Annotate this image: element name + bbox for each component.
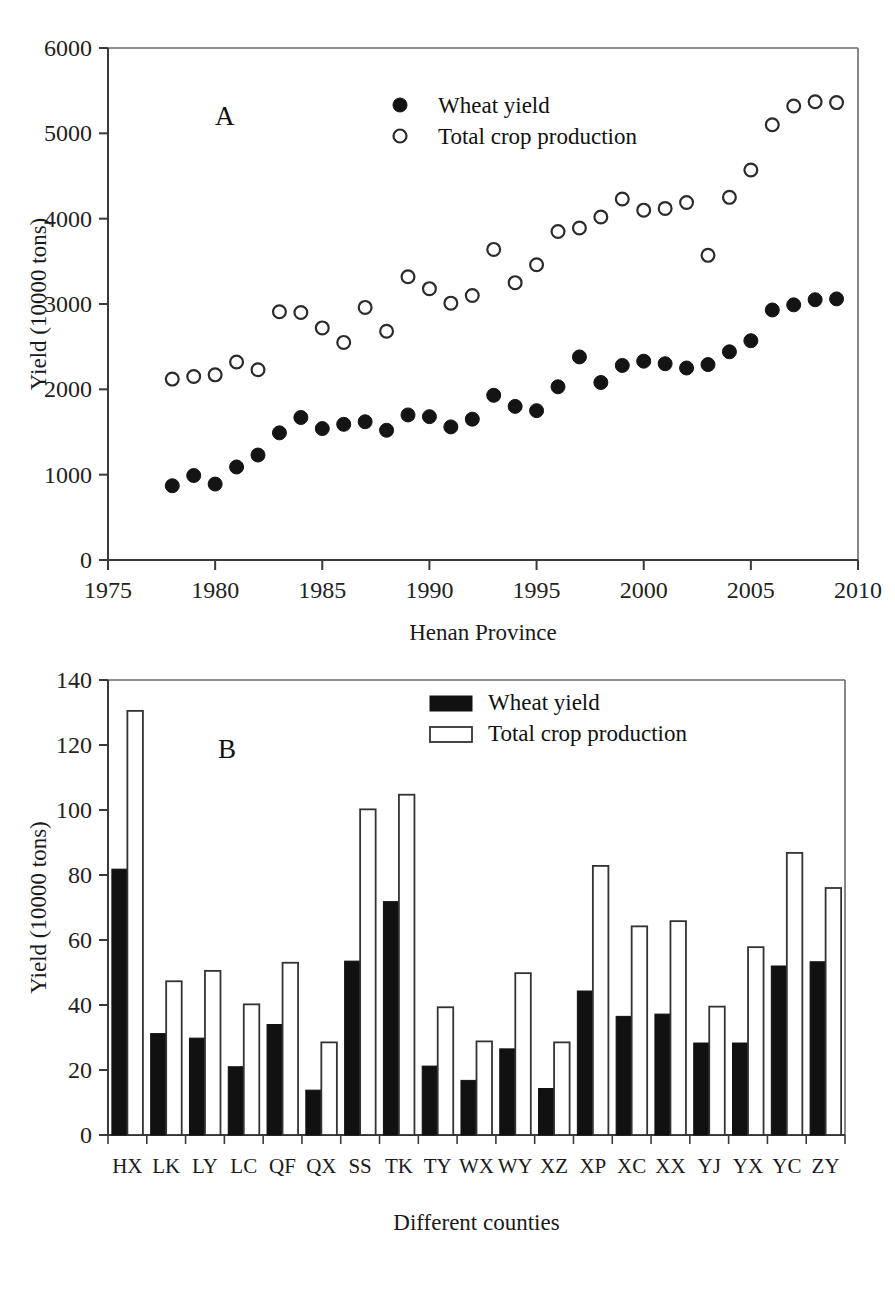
bar-group	[306, 1042, 337, 1135]
x-tick-label: 2010	[834, 577, 882, 603]
x-category-label: XZ	[540, 1154, 568, 1178]
bar-group	[345, 809, 376, 1135]
bar-group	[112, 711, 143, 1135]
data-point-total	[659, 202, 672, 215]
data-point-total	[273, 305, 286, 318]
data-point-total	[530, 258, 543, 271]
data-point-wheat	[401, 408, 415, 422]
data-point-total	[552, 225, 565, 238]
data-point-wheat	[594, 376, 608, 390]
data-point-wheat	[787, 298, 801, 312]
bar-wheat-yield	[655, 1014, 671, 1135]
y-tick-label: 5000	[44, 120, 92, 146]
bar-total-crop-production	[670, 921, 686, 1135]
x-category-label: QF	[269, 1154, 296, 1178]
bar-wheat-yield	[267, 1025, 283, 1136]
legend-swatch-wheat-yield	[430, 696, 472, 711]
data-point-wheat	[294, 410, 308, 424]
data-point-wheat	[465, 412, 479, 426]
bar-total-crop-production	[399, 795, 415, 1135]
bar-total-crop-production	[554, 1042, 570, 1135]
data-point-wheat	[487, 388, 501, 402]
bar-group	[539, 1042, 570, 1135]
bar-total-crop-production	[748, 947, 764, 1135]
x-tick-label: 2000	[620, 577, 668, 603]
y-tick-label: 2000	[44, 376, 92, 402]
data-point-wheat	[422, 410, 436, 424]
x-tick-label: 1995	[513, 577, 561, 603]
x-tick-label: 1985	[298, 577, 346, 603]
bar-wheat-yield	[228, 1067, 244, 1135]
x-category-label: WX	[459, 1154, 494, 1178]
data-point-total	[316, 321, 329, 334]
y-tick-label: 140	[56, 667, 92, 693]
bar-total-crop-production	[321, 1042, 337, 1135]
data-point-wheat	[165, 479, 179, 493]
data-point-wheat	[722, 345, 736, 359]
y-tick-label: 60	[68, 927, 92, 953]
data-point-total	[187, 370, 200, 383]
x-tick-label: 1975	[84, 577, 132, 603]
data-point-total	[380, 325, 393, 338]
x-category-label: LC	[230, 1154, 257, 1178]
x-category-label: TY	[424, 1154, 452, 1178]
bar-wheat-yield	[383, 902, 399, 1135]
data-point-total	[830, 96, 843, 109]
data-point-wheat	[251, 448, 265, 462]
x-category-label: YC	[772, 1154, 801, 1178]
data-point-wheat	[444, 420, 458, 434]
legend-marker-total-crop-production	[394, 130, 407, 143]
data-point-wheat	[615, 358, 629, 372]
x-tick-label: 1980	[191, 577, 239, 603]
bar-wheat-yield	[345, 961, 361, 1135]
bar-group	[500, 973, 531, 1135]
data-point-total	[209, 368, 222, 381]
x-category-label: LK	[152, 1154, 180, 1178]
bar-wheat-yield	[422, 1066, 438, 1135]
panel-letter-b: B	[218, 734, 236, 764]
legend-label-wheat-yield: Wheat yield	[488, 690, 600, 715]
bar-total-crop-production	[283, 963, 299, 1135]
y-tick-label: 40	[68, 992, 92, 1018]
data-point-wheat	[572, 350, 586, 364]
series-wheat-yield	[165, 292, 843, 493]
bar-group	[655, 921, 686, 1135]
bar-wheat-yield	[189, 1038, 205, 1135]
y-tick-label: 20	[68, 1057, 92, 1083]
bar-group	[577, 866, 608, 1135]
x-category-label: QX	[306, 1154, 336, 1178]
x-category-label: TK	[385, 1154, 413, 1178]
x-category-label: YX	[733, 1154, 763, 1178]
x-category-label: WY	[498, 1154, 533, 1178]
x-category-label: LY	[192, 1154, 218, 1178]
data-point-total	[509, 276, 522, 289]
bar-total-crop-production	[632, 926, 648, 1135]
bar-wheat-yield	[771, 966, 787, 1135]
x-category-label: XP	[579, 1154, 606, 1178]
y-tick-label: 3000	[44, 291, 92, 317]
bar-wheat-yield	[616, 1016, 632, 1135]
data-point-total	[723, 191, 736, 204]
bar-group	[771, 853, 802, 1135]
bar-group	[267, 963, 298, 1135]
bar-wheat-yield	[500, 1049, 516, 1135]
data-point-total	[466, 289, 479, 302]
data-point-total	[573, 222, 586, 235]
data-point-total	[809, 95, 822, 108]
panel-a-chart: 0100020003000400050006000197519801985199…	[0, 0, 895, 655]
x-category-label: SS	[348, 1154, 371, 1178]
bar-group	[461, 1041, 492, 1135]
x-axis-title-a: Henan Province	[409, 620, 557, 645]
data-point-total	[294, 306, 307, 319]
bar-group	[228, 1004, 259, 1135]
data-point-total	[594, 211, 607, 224]
bar-wheat-yield	[151, 1034, 167, 1135]
data-point-wheat	[744, 334, 758, 348]
legend-label-wheat-yield: Wheat yield	[438, 93, 550, 118]
bar-group	[733, 947, 764, 1135]
data-point-total	[423, 282, 436, 295]
data-point-wheat	[530, 404, 544, 418]
data-point-wheat	[551, 380, 565, 394]
bar-wheat-yield	[810, 962, 826, 1135]
y-axis-title-b: Yield (10000 tons)	[26, 821, 51, 994]
